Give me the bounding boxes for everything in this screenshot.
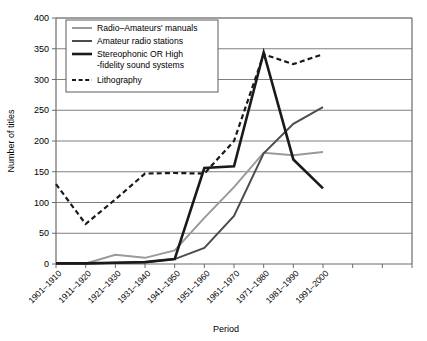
series-line-0: [56, 152, 323, 263]
x-axis-title: Period: [213, 324, 239, 334]
ytick-label-400: 400: [34, 13, 49, 23]
ytick-label-250: 250: [34, 105, 49, 115]
ytick-label-150: 150: [34, 167, 49, 177]
legend-label-1: Amateur radio stations: [97, 36, 183, 46]
ytick-label-0: 0: [44, 259, 49, 269]
series-line-1: [56, 107, 323, 263]
legend-label-3: Lithography: [97, 75, 143, 85]
line-chart: 0501001502002503003504001901–19101911–19…: [0, 0, 427, 341]
ytick-label-100: 100: [34, 198, 49, 208]
ytick-label-300: 300: [34, 75, 49, 85]
ytick-label-50: 50: [39, 228, 49, 238]
chart-canvas: 0501001502002503003504001901–19101911–19…: [0, 0, 427, 341]
ytick-label-200: 200: [34, 136, 49, 146]
ytick-label-350: 350: [34, 44, 49, 54]
legend-label-2-cont: -fidelity sound systems: [97, 60, 184, 70]
legend-label-0: Radio–Amateurs' manuals: [97, 23, 198, 33]
y-axis-title: Number of titles: [6, 109, 16, 173]
legend-label-2: Stereophonic OR High: [97, 49, 183, 59]
